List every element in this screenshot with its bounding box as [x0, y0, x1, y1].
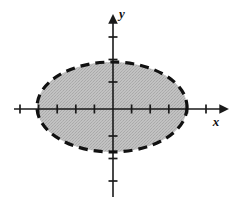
figure-root: x y — [0, 0, 236, 209]
x-axis-label: x — [212, 114, 220, 129]
y-axis-label: y — [117, 6, 125, 21]
ellipse-graph: x y — [0, 0, 236, 209]
